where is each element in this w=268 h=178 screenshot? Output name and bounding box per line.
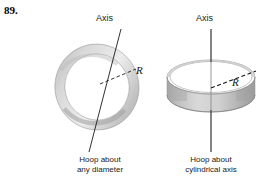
left-hoop-graphic: [46, 29, 148, 152]
left-caption-line2: any diameter: [62, 165, 138, 175]
right-hoop-graphic: [167, 29, 256, 152]
left-axis-label: Axis: [96, 13, 113, 23]
left-radius-label: R: [136, 64, 143, 76]
left-caption: Hoop about any diameter: [62, 155, 138, 174]
hoop-figure-svg: [0, 0, 268, 178]
right-radius-label: R: [232, 76, 239, 88]
right-caption: Hoop about cylindrical axis: [168, 155, 254, 174]
right-axis-label: Axis: [196, 13, 213, 23]
figure-container: 89.: [0, 0, 268, 178]
right-caption-line2: cylindrical axis: [168, 165, 254, 175]
right-caption-line1: Hoop about: [168, 155, 254, 165]
left-caption-line1: Hoop about: [62, 155, 138, 165]
